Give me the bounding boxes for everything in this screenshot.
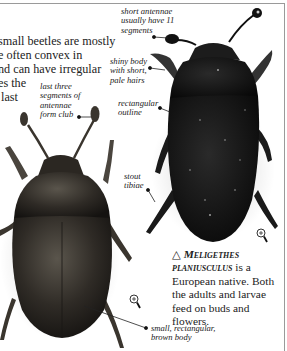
- species-name: Meligethes planiusculus: [172, 248, 239, 273]
- brown-beetle-image: [0, 106, 132, 348]
- label-antennae-club: last three segments of antennae form clu…: [40, 82, 80, 120]
- magnifier-icon: [256, 228, 268, 244]
- label-short-antennae: short antennae usually have 11 segments: [121, 7, 174, 35]
- species-caption: △ Meligethes planiusculus is a European …: [172, 248, 287, 328]
- label-rectangular-outline: rectangular outline: [118, 99, 158, 118]
- meligethes-beetle-image: [146, 8, 278, 242]
- magnifier-icon: [129, 294, 141, 310]
- label-shiny-body: shiny body with short, pale hairs: [110, 57, 147, 85]
- triangle-symbol: △: [172, 248, 181, 260]
- label-stout-tibiae: stout tibiae: [124, 172, 144, 191]
